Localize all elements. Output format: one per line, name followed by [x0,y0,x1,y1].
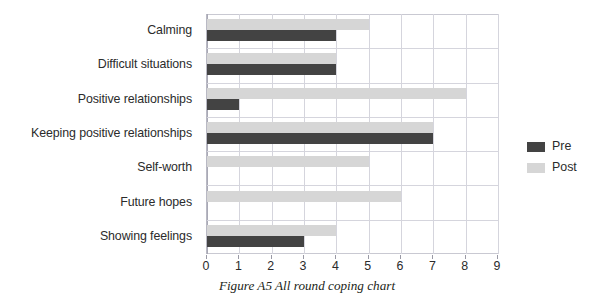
chart-legend: PrePost [527,138,607,180]
x-tick-label: 3 [291,259,315,273]
x-tick-label: 8 [453,259,477,273]
x-tick-label: 2 [259,259,283,273]
bar-group [207,151,498,185]
bar-post [207,19,369,30]
category-label: Difficult situations [0,58,192,71]
x-tick-label: 7 [420,259,444,273]
x-tick-label: 9 [485,259,509,273]
category-label: Self-worth [0,161,192,174]
bar-post [207,225,336,236]
x-tick-label: 4 [323,259,347,273]
figure-container: CalmingDifficult situationsPositive rela… [0,0,614,301]
category-label: Future hopes [0,196,192,209]
bar-post [207,122,433,133]
category-axis-labels: CalmingDifficult situationsPositive rela… [0,14,200,254]
bar-pre [207,236,304,247]
category-label: Calming [0,24,192,37]
x-axis: 0123456789 [206,255,497,277]
gridline-vertical [498,14,499,254]
category-label: Showing feelings [0,230,192,243]
x-tick-label: 6 [388,259,412,273]
bar-post [207,191,401,202]
legend-swatch-icon [527,142,545,152]
bar-pre [207,64,336,75]
bar-group [207,48,498,82]
legend-label: Pre [552,140,571,153]
legend-swatch-icon [527,163,545,173]
bar-pre [207,99,239,110]
bar-pre [207,133,433,144]
bar-group [207,185,498,219]
x-tick-label: 0 [194,259,218,273]
plot-area [206,14,498,254]
bar-group [207,14,498,48]
category-label: Keeping positive relationships [0,127,192,140]
x-tick-label: 1 [226,259,250,273]
legend-label: Post [552,161,577,174]
legend-item-post[interactable]: Post [527,159,607,176]
bar-post [207,88,466,99]
bar-pre [207,30,336,41]
bar-group [207,117,498,151]
category-label: Positive relationships [0,93,192,106]
x-tick-label: 5 [356,259,380,273]
bar-group [207,220,498,254]
bar-post [207,53,336,64]
figure-caption: Figure A5 All round coping chart [0,278,614,294]
bar-group [207,83,498,117]
legend-item-pre[interactable]: Pre [527,138,607,155]
bar-post [207,156,369,167]
